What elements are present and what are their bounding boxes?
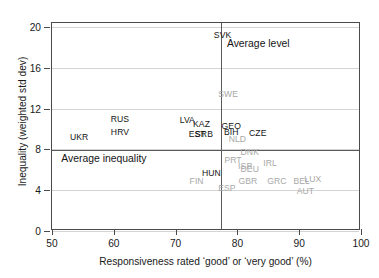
plot-area: 0481216205060708090100SVKSWERUSLVAKAZGEO… [51,22,360,230]
x-axis-tick [299,229,300,235]
x-axis-tick-label: 70 [170,238,181,249]
data-point-label: UKR [70,132,88,142]
data-point-label: LUX [304,174,321,184]
data-point-label: FIN [190,176,204,186]
y-axis-tick-label: 16 [30,62,41,73]
data-point-label: ESP [218,183,236,193]
x-axis-tick-label: 90 [294,238,305,249]
x-axis-tick [114,229,115,235]
y-gridline [52,68,359,69]
data-point-label: NLD [229,134,247,144]
data-point-label: SRB [195,129,213,139]
x-axis-tick-label: 100 [353,238,370,249]
data-point-label: IRL [263,158,277,168]
x-axis-tick [237,229,238,235]
data-point-label: GRC [267,176,286,186]
y-gridline [52,27,359,28]
x-axis-tick [52,229,53,235]
data-point-label: HRV [111,127,129,137]
y-axis-tick-label: 12 [30,103,41,114]
data-point-label: KAZ [193,119,210,129]
data-point-label: DNK [241,147,259,157]
y-gridline [52,231,359,232]
y-axis-tick-label: 4 [35,185,41,196]
data-point-label: GBR [238,176,257,186]
y-axis-tick [44,68,50,69]
data-point-label: CZE [249,128,267,138]
x-axis-tick-label: 50 [46,238,57,249]
x-axis-tick [361,229,362,235]
x-axis-label: Responsiveness rated ‘good’ or ‘very goo… [51,256,360,267]
y-axis-tick-label: 0 [35,226,41,237]
y-gridline [52,109,359,110]
scatter-plot-figure: Inequality (weighted std dev) 0481216205… [0,0,379,278]
reference-line-average-inequality [52,150,359,151]
data-point-label: SWE [218,89,238,99]
x-axis-tick-label: 80 [232,238,243,249]
data-point-label: AUT [297,186,315,196]
x-axis-tick-label: 60 [108,238,119,249]
y-axis-tick [44,109,50,110]
average-inequality-annotation: Average inequality [61,153,146,164]
y-axis-label: Inequality (weighted std dev) [17,12,28,232]
y-axis-tick [44,149,50,150]
y-axis-tick-label: 20 [30,22,41,33]
data-point-label: RUS [111,114,129,124]
y-axis-tick [44,231,50,232]
data-point-label: HUN [202,168,221,178]
average-level-annotation: Average level [227,38,290,49]
y-axis-tick-label: 8 [35,144,41,155]
y-axis-tick [44,27,50,28]
y-axis-tick [44,190,50,191]
x-axis-tick [176,229,177,235]
data-point-label: DEU [241,164,259,174]
